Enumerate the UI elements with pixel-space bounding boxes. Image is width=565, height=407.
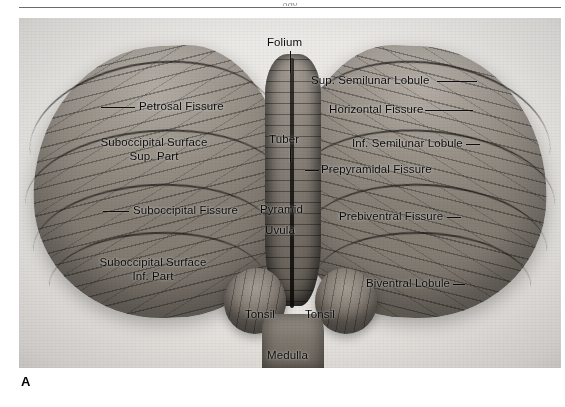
label-suboccipital-surface-inf-line1: Suboccipital Surface xyxy=(100,256,207,268)
label-biventral-lobule: Biventral Lobule xyxy=(366,277,450,290)
label-prebiventral-fissure: Prebiventral Fissure xyxy=(339,210,443,223)
panel-letter: A xyxy=(21,374,30,389)
annotation-layer: Folium Petrosal Fissure Suboccipital Sur… xyxy=(19,18,561,368)
label-inf-semilunar-lobule: Inf. Semilunar Lobule xyxy=(352,137,463,150)
label-petrosal-fissure: Petrosal Fissure xyxy=(139,100,224,113)
label-tonsil-right: Tonsil xyxy=(305,308,335,321)
leader-sup-semilunar-lobule xyxy=(437,81,477,82)
label-suboccipital-surface-sup-line1: Suboccipital Surface xyxy=(101,136,208,148)
leader-petrosal-fissure xyxy=(101,107,135,108)
leader-prepyramidal-fissure xyxy=(305,170,319,171)
leader-biventral-lobule xyxy=(453,284,465,285)
label-suboccipital-surface-inf-line2: Inf. Part xyxy=(132,270,173,282)
label-pyramid: Pyramid xyxy=(260,203,303,216)
leader-suboccipital-fissure xyxy=(103,211,129,212)
label-suboccipital-surface-sup-line2: Sup. Part xyxy=(130,150,179,162)
leader-horizontal-fissure xyxy=(425,110,473,111)
label-sup-semilunar-lobule: Sup. Semilunar Lobule xyxy=(311,74,429,87)
label-prepyramidal-fissure: Prepyramidal Fissure xyxy=(321,163,432,176)
label-uvula: Uvula xyxy=(265,224,295,237)
label-folium: Folium xyxy=(267,36,302,49)
leader-folium xyxy=(290,51,291,73)
label-suboccipital-fissure: Suboccipital Fissure xyxy=(133,204,238,217)
leader-tuber xyxy=(290,148,291,162)
running-head-fragment: ogy xyxy=(255,0,325,6)
label-tonsil-left: Tonsil xyxy=(245,308,275,321)
leader-inf-semilunar-lobule xyxy=(466,144,480,145)
figure-photo-plate: Folium Petrosal Fissure Suboccipital Sur… xyxy=(19,18,561,368)
label-horizontal-fissure: Horizontal Fissure xyxy=(329,103,423,116)
label-tuber: Tuber xyxy=(269,133,299,146)
label-medulla: Medulla xyxy=(267,349,308,362)
leader-prebiventral-fissure xyxy=(447,217,461,218)
page-top-rule xyxy=(19,7,561,8)
